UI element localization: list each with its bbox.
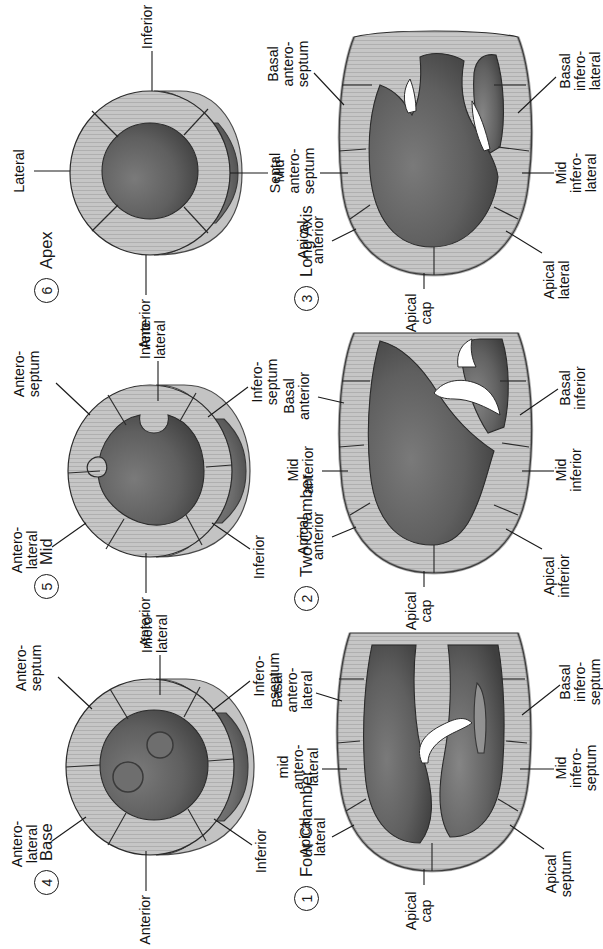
label-anterior: Anterior [138, 299, 153, 383]
panel-apex: 6 Apex [0, 25, 292, 315]
label-septal: Septal [268, 137, 283, 209]
panel-long-axis: 3 Long Axis [292, 9, 592, 329]
label-infero-septum: Infero- septum [252, 643, 282, 709]
label-lateral: Lateral [12, 135, 27, 207]
label-apical-cap: Apical cap [404, 887, 434, 935]
panel-6-artwork [0, 25, 292, 315]
label-inferior: Inferior [140, 0, 155, 49]
label-anterior: Anterior [138, 597, 153, 681]
label-apical-cap: Apical cap [404, 289, 434, 337]
panel-two-chamber: 2 Two Chamber [292, 319, 592, 629]
label-anterior: Anterior [138, 895, 153, 949]
label-apical-inferior: Apical inferior [542, 545, 572, 607]
label-apical-lateral: Apical lateral [298, 809, 328, 865]
label-antero-septum: Antero- septum [14, 635, 44, 701]
label-apical-cap: Apical cap [404, 587, 434, 635]
label-mid-infero-septum: Mid infero- septum [554, 738, 598, 798]
label-inferior: Inferior [254, 813, 269, 889]
label-mid-infero-lateral: Mid infero- lateral [554, 143, 598, 203]
label-antero-septum: Antero- septum [12, 341, 42, 407]
label-basal-infero-lateral: Basal infero- lateral [558, 39, 602, 103]
label-inferior: Inferior [252, 519, 267, 595]
label-antero-lateral: Antero- lateral [10, 811, 40, 877]
label-antero-lateral: Antero- lateral [10, 517, 40, 583]
label-apical-septum: Apical septum [544, 843, 574, 905]
panel-four-chamber: 1 Four Chamber [292, 619, 592, 929]
label-infero-septum: Infero- septum [250, 349, 280, 415]
label-apical-lateral: Apical lateral [542, 249, 572, 311]
label-basal-inferior: Basal inferior [558, 357, 588, 419]
label-basal-infero-septum: Basal infero- septum [558, 651, 602, 713]
label-apical-anterior: Apical anterior [296, 209, 326, 271]
label-mid-inferior: Mid inferior [554, 439, 584, 501]
label-apical-anterior: Apical anterior [296, 505, 326, 567]
